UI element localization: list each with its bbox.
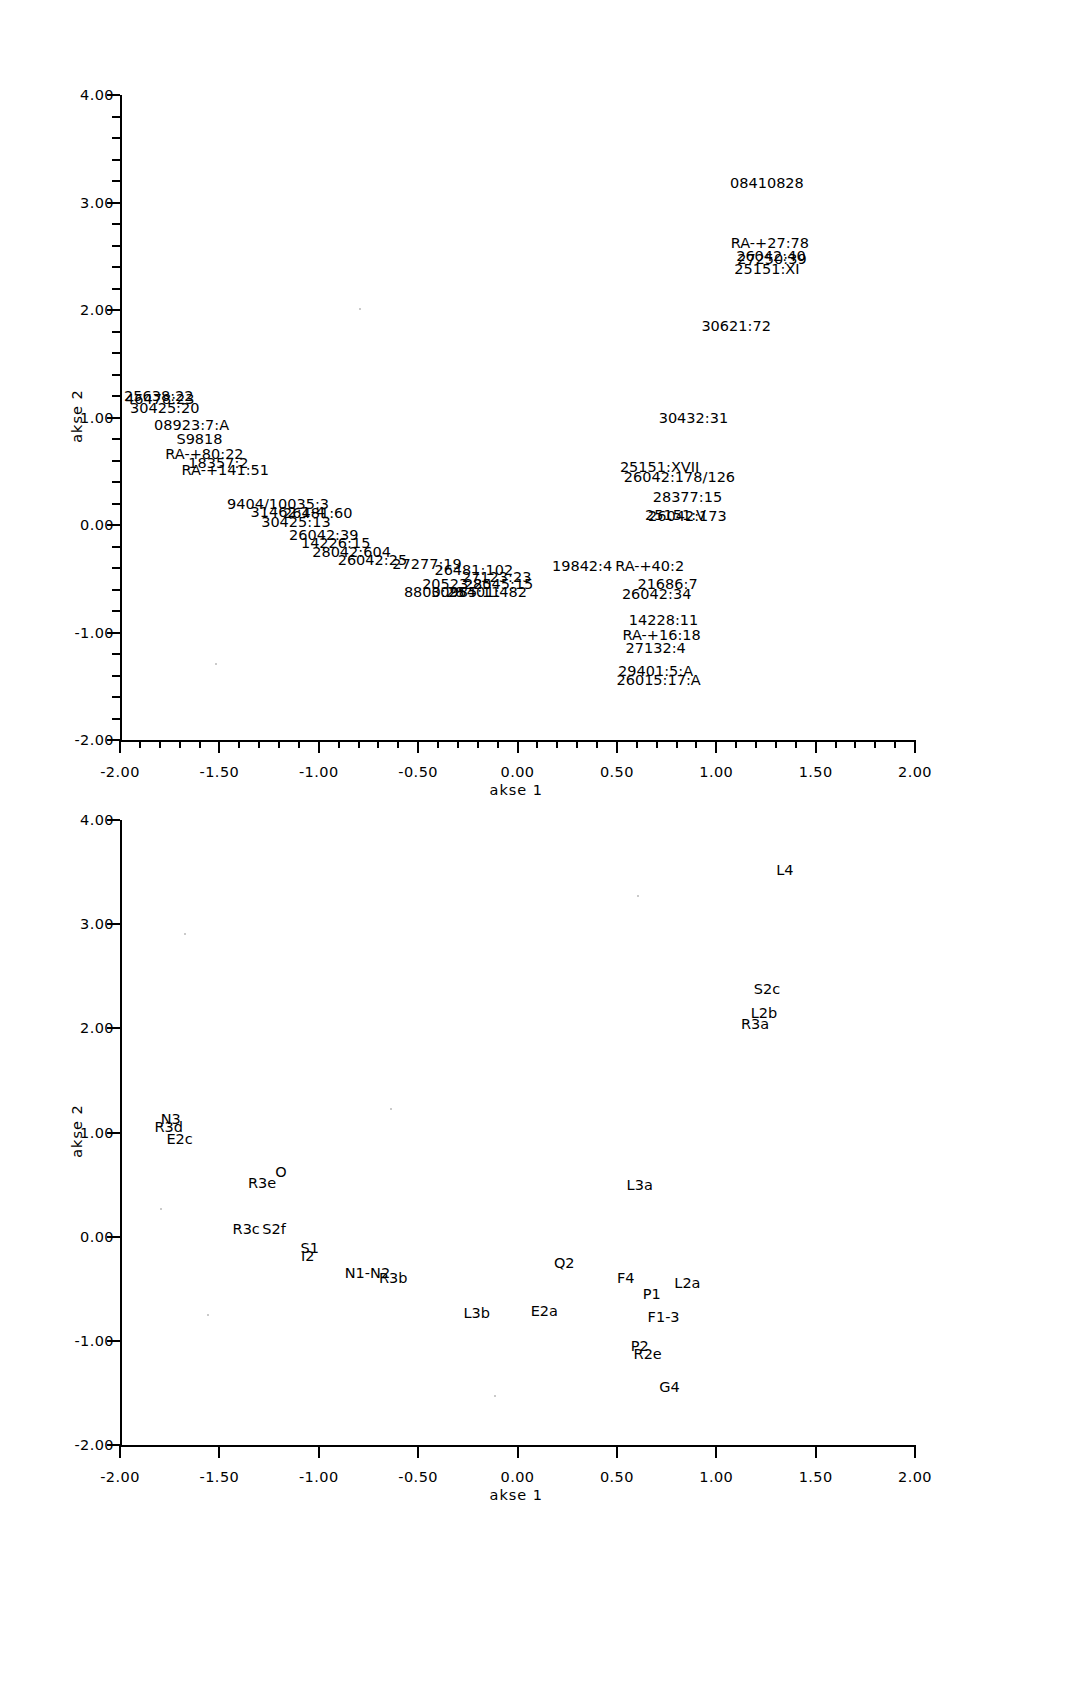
x-tick-minor	[735, 740, 737, 748]
x-tick-minor	[298, 740, 300, 748]
y-tick-minor	[112, 546, 120, 548]
y-tick-minor	[112, 374, 120, 376]
x-tick-minor	[497, 740, 499, 748]
y-tick-minor	[112, 288, 120, 290]
data-point-label: R3b	[379, 1271, 408, 1286]
data-point-label: 25151:XI	[734, 262, 799, 277]
x-tick-major	[417, 740, 419, 753]
x-tick-minor	[238, 740, 240, 748]
data-point-label: S2c	[754, 982, 780, 997]
y-tick-label: 2.00	[80, 302, 120, 318]
y-tick-minor	[112, 223, 120, 225]
data-point-label: Q2	[554, 1255, 575, 1270]
x-tick-minor	[676, 740, 678, 748]
x-tick-minor	[139, 740, 141, 748]
data-point-label: P1	[643, 1287, 661, 1302]
data-point-label: L4	[776, 863, 793, 878]
x-tick-label: 0.50	[600, 1459, 634, 1485]
x-tick-label: -1.50	[200, 754, 240, 780]
y-tick-label: -1.00	[74, 625, 120, 641]
x-tick-major	[218, 740, 220, 753]
x-tick-major	[616, 1445, 618, 1458]
scatter-panel-top: 4.003.002.001.000.00-1.00-2.00-2.00-1.50…	[0, 0, 1072, 800]
x-tick-label: -0.50	[398, 754, 438, 780]
x-tick-minor	[199, 740, 201, 748]
data-point-label: S2f	[262, 1222, 286, 1237]
y-tick-minor	[112, 116, 120, 118]
data-point-label: 26015:17:A	[616, 673, 700, 688]
scan-speckle	[494, 1395, 496, 1397]
data-point-label: L3b	[463, 1305, 490, 1320]
x-tick-minor	[656, 740, 658, 748]
scan-speckle	[215, 663, 217, 665]
y-tick-minor	[112, 438, 120, 440]
x-tick-major	[119, 740, 121, 753]
x-tick-label: 0.00	[501, 754, 535, 780]
x-tick-label: -0.50	[398, 1459, 438, 1485]
data-point-label: RA-+40:2	[615, 559, 684, 574]
x-tick-minor	[636, 740, 638, 748]
x-tick-label: 0.00	[501, 1459, 535, 1485]
data-point-label: 30425:20	[130, 401, 199, 416]
x-tick-label: 1.50	[799, 754, 833, 780]
data-point-label: RA-+141:51	[182, 463, 269, 478]
x-tick-minor	[258, 740, 260, 748]
data-point-label: 30621:72	[701, 319, 770, 334]
x-tick-minor	[894, 740, 896, 748]
data-point-label: I2	[301, 1249, 315, 1264]
scan-speckle	[359, 308, 361, 310]
x-tick-major	[815, 740, 817, 753]
x-tick-minor	[755, 740, 757, 748]
y-tick-label: 0.00	[80, 1229, 120, 1245]
x-tick-minor	[358, 740, 360, 748]
data-point-label: S9818	[176, 432, 222, 447]
x-tick-major	[914, 1445, 916, 1458]
y-tick-minor	[112, 245, 120, 247]
y-tick-label: -1.00	[74, 1333, 120, 1349]
scan-speckle	[184, 933, 186, 935]
x-tick-minor	[338, 740, 340, 748]
x-tick-minor	[159, 740, 161, 748]
data-point-label: E2a	[531, 1303, 558, 1318]
data-point-label: 19842:4	[552, 559, 612, 574]
x-tick-minor	[576, 740, 578, 748]
y-tick-minor	[112, 137, 120, 139]
y-tick-minor	[112, 331, 120, 333]
y-tick-label: 3.00	[80, 195, 120, 211]
x-tick-major	[517, 1445, 519, 1458]
data-point-label: 30432:31	[659, 410, 728, 425]
y-tick-minor	[112, 675, 120, 677]
y-tick-label: -2.00	[74, 1437, 120, 1453]
x-tick-minor	[477, 740, 479, 748]
y-tick-minor	[112, 395, 120, 397]
y-tick-minor	[112, 696, 120, 698]
y-tick-minor	[112, 266, 120, 268]
data-point-label: 14228:11	[629, 612, 698, 627]
y-axis-line-1	[120, 820, 122, 1446]
data-point-label: R2e	[634, 1347, 662, 1362]
data-point-label: O	[275, 1165, 286, 1180]
y-tick-minor	[112, 180, 120, 182]
y-tick-minor	[112, 159, 120, 161]
x-tick-label: -1.00	[299, 1459, 339, 1485]
x-tick-label: 2.00	[898, 754, 932, 780]
y-tick-label: 4.00	[80, 87, 120, 103]
y-axis-line-0	[120, 95, 122, 741]
data-point-label: R3a	[741, 1017, 769, 1032]
x-tick-major	[914, 740, 916, 753]
scan-speckle	[390, 1108, 392, 1110]
x-tick-minor	[278, 740, 280, 748]
data-point-label: 26042:173	[648, 509, 727, 524]
y-tick-minor	[112, 481, 120, 483]
x-axis-title: akse 1	[490, 1487, 544, 1503]
y-tick-minor	[112, 718, 120, 720]
x-tick-minor	[536, 740, 538, 748]
plot-area-top: 4.003.002.001.000.00-1.00-2.00-2.00-1.50…	[120, 95, 915, 740]
data-point-label: 26042:178/126	[624, 469, 735, 484]
x-tick-label: 0.50	[600, 754, 634, 780]
y-tick-minor	[112, 503, 120, 505]
data-point-label: 25401:482	[448, 584, 527, 599]
scan-speckle	[160, 1208, 162, 1210]
data-point-label: F4	[617, 1271, 635, 1286]
data-point-label: R3c	[233, 1222, 260, 1237]
